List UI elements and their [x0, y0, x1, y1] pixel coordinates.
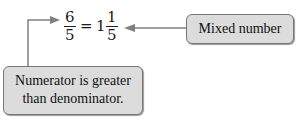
numerator-greater-callout: Numerator is greater than denominator. [3, 66, 143, 115]
mixed-number-label: Mixed number [199, 21, 282, 36]
mixed-number-callout: Mixed number [186, 14, 294, 44]
mixed-whole: 1 [96, 19, 106, 34]
numerator-label-line2: than denominator. [4, 90, 142, 108]
mixed-numerator: 1 [106, 10, 118, 27]
improper-denominator: 5 [65, 27, 75, 43]
equals-sign: = [80, 19, 93, 34]
arrow-right-icon [50, 16, 60, 24]
numerator-connector-line [28, 20, 52, 66]
mixed-fraction: 1 5 [106, 10, 118, 43]
numerator-label-line1: Numerator is greater [4, 72, 142, 90]
mixed-denominator: 5 [107, 27, 117, 43]
arrow-left-icon [124, 24, 135, 32]
improper-fraction: 6 5 [64, 10, 76, 43]
improper-numerator: 6 [64, 10, 76, 27]
